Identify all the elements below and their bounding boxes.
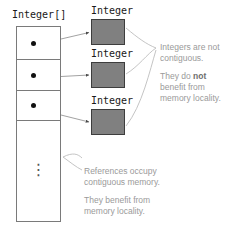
references-note-line-3: They benefit from — [84, 195, 150, 205]
integer-object-label-2: Integer — [91, 95, 133, 107]
array-cell-2[interactable] — [17, 91, 60, 121]
references-note-leader-upper — [63, 154, 82, 158]
integers-note-leader — [126, 28, 156, 48]
integers-note-emphasis: not — [193, 71, 206, 81]
array-cell-remainder[interactable]: ⋮ — [17, 121, 60, 221]
array-container: ⋮ — [16, 26, 61, 222]
integer-object-label-0: Integer — [91, 5, 133, 17]
integer-object-box-1[interactable] — [91, 62, 125, 88]
references-note-line-1: References occupy — [84, 166, 157, 176]
integer-object-box-0[interactable] — [91, 19, 125, 45]
references-note-leader — [63, 157, 82, 170]
integers-note-line-2: contiguous. — [160, 53, 203, 63]
array-cell-0[interactable] — [17, 27, 60, 60]
reference-dot-0 — [31, 41, 36, 46]
integer-object-box-2[interactable] — [91, 109, 125, 135]
integers-note: Integers are not contiguous. They do not… — [160, 42, 221, 104]
references-note-line-2: contiguous memory. — [84, 177, 160, 187]
vertical-ellipsis-icon: ⋮ — [17, 160, 60, 180]
references-note-line-4: memory locality. — [84, 206, 145, 216]
integers-note-line-4: benefit from — [160, 82, 205, 92]
memory-layout-diagram: Integer[] ⋮ Integer Integer Integer Inte… — [0, 0, 239, 237]
references-note-para-2: They benefit from memory locality. — [84, 195, 160, 217]
integers-note-line-3-pre: They do — [160, 71, 193, 81]
references-note-para-1: References occupy contiguous memory. — [84, 166, 160, 188]
array-type-label: Integer[] — [12, 9, 66, 21]
reference-dot-1 — [31, 73, 36, 78]
reference-dot-2 — [31, 103, 36, 108]
integers-note-para-2: They do not benefit from memory locality… — [160, 71, 221, 104]
integer-object-label-1: Integer — [91, 48, 133, 60]
integers-note-line-1: Integers are not — [160, 42, 220, 52]
array-cell-1[interactable] — [17, 60, 60, 91]
references-note: References occupy contiguous memory. The… — [84, 166, 160, 217]
integers-note-para-1: Integers are not contiguous. — [160, 42, 221, 64]
integers-note-line-5: memory locality. — [160, 93, 221, 103]
